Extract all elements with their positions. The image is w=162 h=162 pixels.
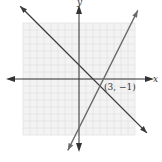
graph: x y (3, −1) xyxy=(0,0,162,162)
intersection-label: (3, −1) xyxy=(104,82,136,92)
x-axis-label: x xyxy=(153,74,158,84)
y-axis-label: y xyxy=(76,0,83,7)
